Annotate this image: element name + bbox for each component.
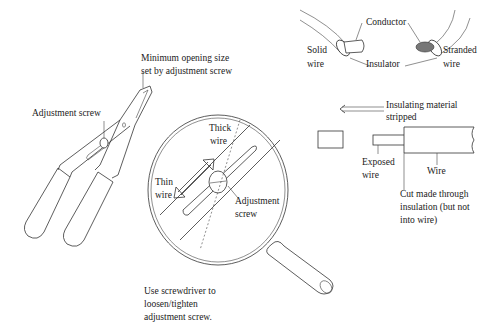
cut-label-line3: into wire)	[400, 214, 437, 227]
min-opening-label-line2: set by adjustment screw	[141, 65, 232, 78]
wire-label: Wire	[427, 165, 446, 178]
thick-wire-label-line1: Thick	[209, 122, 231, 135]
min-opening-label-line1: Minimum opening size	[141, 52, 229, 65]
magnifier-screw-label-line2: screw	[235, 208, 257, 221]
thin-wire-label-line2: wire	[155, 189, 172, 202]
insulator-label: Insulator	[366, 58, 400, 71]
wire-stripper-diagram: Minimum opening size set by adjustment s…	[0, 0, 495, 336]
instruction-line1: Use screwdriver to	[144, 285, 216, 298]
insulating-material-label-line2: stripped	[386, 111, 417, 124]
solid-wire-label-line2: wire	[307, 58, 324, 71]
cut-label-line1: Cut made through	[400, 188, 469, 201]
exposed-wire-label-line2: wire	[362, 169, 379, 182]
solid-wire-label-line1: Solid	[307, 44, 327, 57]
stranded-wire-label-line2: wire	[443, 58, 460, 71]
instruction-line2: loosen/tighten	[144, 298, 198, 311]
magnifier-screw-label-line1: Adjustment	[235, 195, 279, 208]
cut-label-line2: insulation (but not	[400, 201, 470, 214]
thick-wire-label-line2: wire	[210, 135, 227, 148]
instruction-line3: adjustment screw.	[144, 311, 212, 324]
exposed-wire-label-line1: Exposed	[362, 156, 395, 169]
diagram-drawing	[0, 0, 495, 336]
adjustment-screw-label: Adjustment screw	[32, 107, 101, 120]
stranded-wire-label-line1: Stranded	[443, 44, 477, 57]
conductor-label: Conductor	[366, 16, 406, 29]
thin-wire-label-line1: Thin	[155, 176, 173, 189]
